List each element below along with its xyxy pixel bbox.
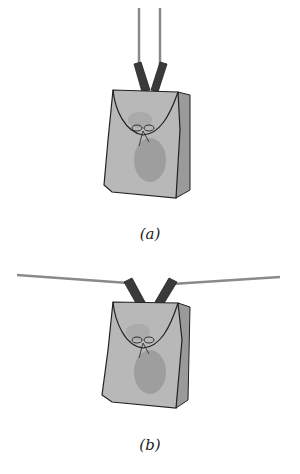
bag-shadow [134,350,166,394]
caption-b: (b) [0,436,300,454]
right-strap [155,278,177,305]
caption-a: (a) [0,225,300,243]
horizontal-rope [17,275,280,284]
panel-a: (a) [0,0,300,250]
left-strap [134,62,150,92]
right-strap [151,62,167,92]
left-strap [124,278,145,305]
panel-b: (b) [0,250,300,474]
backpack-vertical-ropes-illustration [0,0,300,250]
bag-shadow [134,138,166,182]
